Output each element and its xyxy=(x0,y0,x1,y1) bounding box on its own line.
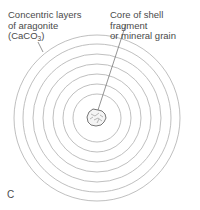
formula-suffix: ) xyxy=(41,30,44,41)
panel-label: C xyxy=(7,190,14,201)
layers-label: Concentric layers of aragonite (CaCO3) xyxy=(8,10,93,42)
formula-prefix: (CaCO xyxy=(8,30,38,41)
core-label-line1: Core of shell fragment xyxy=(110,10,200,31)
layers-formula: (CaCO3) xyxy=(8,31,93,42)
layers-leader-line xyxy=(38,42,43,52)
layers-label-line1: Concentric layers xyxy=(8,10,93,21)
core-grain xyxy=(87,109,106,126)
core-label-line2: or mineral grain xyxy=(110,31,200,42)
core-label: Core of shell fragment or mineral grain xyxy=(110,10,200,42)
